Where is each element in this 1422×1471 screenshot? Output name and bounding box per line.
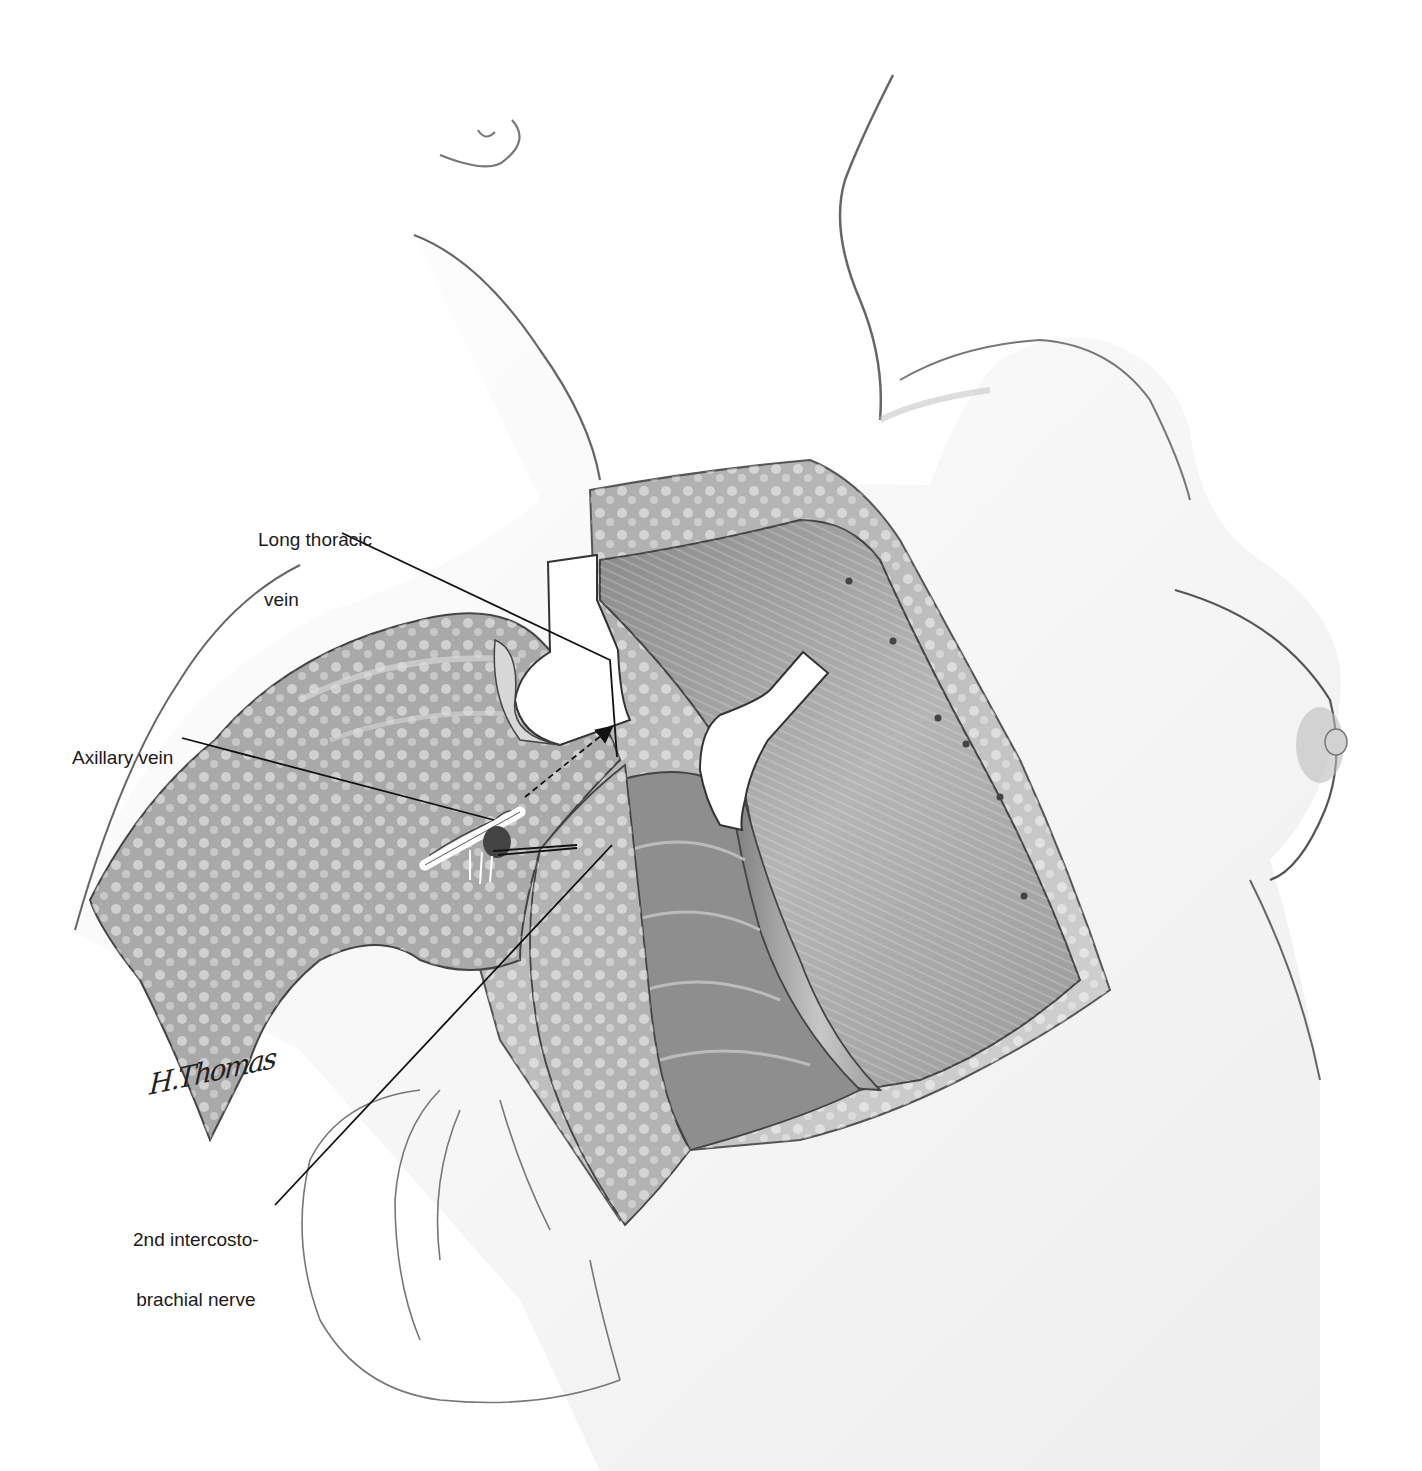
label-line: brachial nerve bbox=[133, 1290, 259, 1310]
label-intercostobrachial-nerve: 2nd intercosto- brachial nerve bbox=[133, 1190, 259, 1330]
label-long-thoracic-vein: Long thoracic vein bbox=[258, 490, 372, 630]
label-line: Axillary vein bbox=[72, 748, 173, 768]
label-line: 2nd intercosto- bbox=[133, 1230, 259, 1250]
label-line: Long thoracic bbox=[258, 530, 372, 550]
label-axillary-vein: Axillary vein bbox=[72, 708, 173, 788]
label-line: vein bbox=[258, 590, 372, 610]
chin-outline bbox=[440, 120, 520, 166]
